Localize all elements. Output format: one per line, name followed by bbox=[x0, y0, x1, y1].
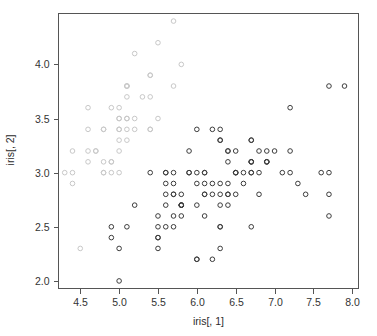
x-tick-label: 5.0 bbox=[112, 296, 127, 308]
y-tick-label: 3.0 bbox=[35, 167, 50, 179]
x-axis-title: iris[, 1] bbox=[193, 315, 224, 327]
y-tick-label: 2.5 bbox=[35, 221, 50, 233]
x-tick-label: 5.5 bbox=[151, 296, 166, 308]
y-tick-label: 3.5 bbox=[35, 113, 50, 125]
x-tick-label: 8.0 bbox=[345, 296, 360, 308]
x-tick-label: 4.5 bbox=[73, 296, 88, 308]
scatter-plot-figure: 4.55.05.56.06.57.07.58.0 2.02.53.03.54.0… bbox=[0, 0, 377, 336]
y-axis-title: iris[, 2] bbox=[4, 134, 16, 165]
y-tick-label: 4.0 bbox=[35, 58, 50, 70]
y-tick-label: 2.0 bbox=[35, 275, 50, 287]
figure-background bbox=[0, 0, 377, 336]
x-tick-label: 7.5 bbox=[306, 296, 321, 308]
x-tick-label: 6.5 bbox=[229, 296, 244, 308]
plot-canvas: 4.55.05.56.06.57.07.58.0 2.02.53.03.54.0… bbox=[0, 0, 377, 336]
x-tick-label: 7.0 bbox=[268, 296, 283, 308]
x-tick-label: 6.0 bbox=[190, 296, 205, 308]
